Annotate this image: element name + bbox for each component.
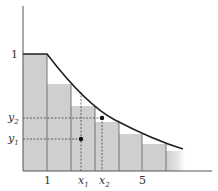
bar-4 [95,122,119,171]
riemann-diagram: 1 y2 y1 1 x1 x2 5 [0,0,218,191]
x1-label: x1 [78,174,89,189]
y-tick-label-1: 1 [11,48,18,61]
bar-6 [142,144,166,171]
x-tick-label-1: 1 [44,174,51,187]
y1-label: y1 [7,132,19,147]
bar-5 [119,134,142,171]
bar-1 [23,54,47,171]
bar-2 [47,84,71,171]
x-tick-label-5: 5 [139,174,146,187]
y2-label: y2 [7,111,19,126]
bar-7-fading [166,151,185,171]
point-2 [100,116,104,120]
point-1 [79,137,83,141]
x2-label: x2 [99,174,110,189]
